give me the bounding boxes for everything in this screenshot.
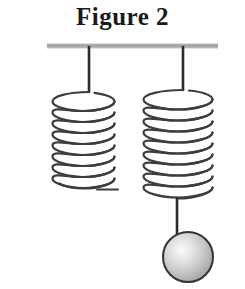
physics-diagram-svg [0,0,245,289]
spring-left-coils [53,92,115,188]
ceiling-support [47,44,218,49]
spring-left [53,47,119,190]
spring-right-coils [144,90,213,198]
figure-canvas: Figure 2 [0,0,245,289]
support-bar-icon [47,44,218,49]
hanging-mass-group [163,198,213,282]
spring-right [144,47,213,199]
hanging-ball-icon [163,232,213,282]
